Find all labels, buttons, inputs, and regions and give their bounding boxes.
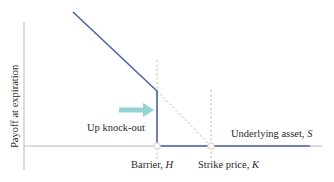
barrier-label-text: Barrier,: [131, 159, 166, 170]
payoff-diagram: Payoff at expiration Up knock-out Underl…: [0, 0, 334, 182]
x-axis-label-text: Underlying asset,: [231, 128, 307, 139]
strike-label-text: Strike price,: [198, 159, 252, 170]
x-axis-label-var: S: [307, 128, 313, 139]
y-axis-label: Payoff at expiration: [9, 64, 20, 148]
barrier-marker: [154, 143, 160, 149]
strike-marker: [208, 143, 214, 149]
knockout-label: Up knock-out: [87, 122, 145, 133]
barrier-label: Barrier, H: [131, 159, 175, 170]
strike-label-var: K: [251, 159, 260, 170]
barrier-label-var: H: [165, 159, 175, 170]
knocked-out-payoff-line: [157, 91, 211, 146]
x-axis-label: Underlying asset, S: [231, 128, 313, 139]
strike-label: Strike price, K: [198, 159, 260, 170]
knock-out-arrow-icon: [119, 103, 154, 117]
